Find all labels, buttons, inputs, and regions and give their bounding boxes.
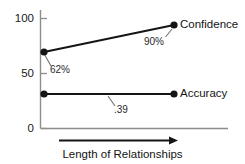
x-axis-caption: Length of Relationships: [0, 149, 245, 161]
series-label-confidence: Confidence: [180, 19, 238, 31]
series-label-accuracy: Accuracy: [180, 88, 227, 100]
chart-figure: 100 50 0 Confidence Accuracy 62% 90% .39…: [0, 0, 245, 164]
data-point-accuracy-left: [40, 90, 47, 97]
y-tick-label-100: 100: [6, 13, 34, 25]
value-label-confidence-right: 90%: [144, 37, 164, 47]
data-point-accuracy-right: [170, 90, 177, 97]
data-point-confidence-right: [170, 21, 177, 28]
x-axis-arrow-head: [169, 136, 178, 144]
value-label-accuracy: .39: [114, 105, 128, 115]
value-label-confidence-left: 62%: [50, 65, 70, 75]
y-tick-label-50: 50: [6, 68, 34, 80]
y-tick-label-0: 0: [6, 123, 34, 135]
leader-line-confidence-right: [166, 29, 173, 37]
data-point-confidence-left: [40, 48, 47, 55]
